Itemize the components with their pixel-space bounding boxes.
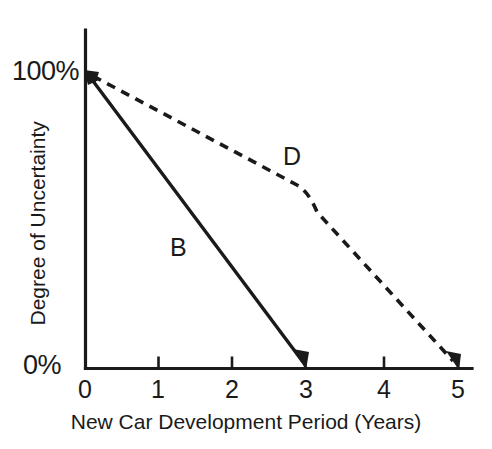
- y-axis-top-label: 100%: [12, 58, 79, 85]
- series-b-curve: [84, 70, 309, 370]
- series-d-annotation-label: D: [283, 142, 301, 171]
- x-tick-label-0: 0: [65, 375, 105, 404]
- series-d-curve: [84, 70, 461, 370]
- x-axis-title: New Car Development Period (Years): [0, 411, 492, 432]
- x-tick-label-3: 3: [286, 375, 326, 404]
- x-tick-label-4: 4: [364, 375, 404, 404]
- series-b-annotation-label: B: [170, 233, 187, 262]
- x-tick-label-1: 1: [138, 375, 178, 404]
- y-axis-title: Degree of Uncertainty: [27, 126, 48, 326]
- x-axis-ticks: [159, 357, 459, 369]
- uncertainty-chart-figure: 100% 0% Degree of Uncertainty 0 1 2 3 4 …: [0, 0, 492, 449]
- y-axis-bottom-label: 0%: [23, 352, 61, 379]
- x-tick-label-2: 2: [212, 375, 252, 404]
- series-b-path: [90, 77, 303, 362]
- series-d-path: [93, 76, 453, 361]
- x-tick-label-5: 5: [438, 375, 478, 404]
